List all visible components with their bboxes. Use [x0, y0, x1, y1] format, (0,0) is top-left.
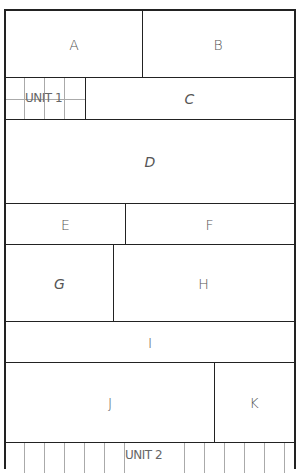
- room-a: A: [6, 11, 142, 78]
- unit2-grid-line: [264, 443, 265, 473]
- room-b: B: [142, 11, 294, 78]
- floor-plan: A B UNIT 1 C D E F G H I J K UNIT 2: [4, 9, 296, 469]
- room-h-label: H: [198, 276, 209, 292]
- room-g-label: G: [54, 276, 65, 292]
- room-d: D: [6, 120, 294, 204]
- room-h: H: [113, 245, 294, 322]
- room-i: I: [6, 322, 294, 363]
- unit1-label: UNIT 1: [25, 91, 62, 105]
- room-k-label: K: [249, 395, 258, 411]
- room-e: E: [6, 204, 125, 245]
- unit2-grid-line: [284, 443, 285, 473]
- room-j-label: J: [108, 395, 112, 411]
- unit2-grid-line: [24, 443, 25, 473]
- unit2-grid-line: [64, 443, 65, 473]
- unit2-grid-line: [84, 443, 85, 473]
- room-i-label: I: [148, 335, 152, 351]
- room-c-label: C: [185, 91, 195, 107]
- room-d-label: D: [145, 154, 156, 170]
- unit2-label: UNIT 2: [125, 448, 162, 462]
- divider-a-b: [142, 11, 143, 78]
- room-j: J: [6, 363, 214, 443]
- room-e-label: E: [61, 217, 70, 233]
- unit2-grid-line: [244, 443, 245, 473]
- unit2-grid-line: [224, 443, 225, 473]
- room-k: K: [214, 363, 294, 443]
- room-f-label: F: [205, 217, 213, 233]
- room-g: G: [6, 245, 113, 322]
- room-a-label: A: [69, 37, 79, 53]
- unit2-grid-line: [44, 443, 45, 473]
- unit2-grid-line: [204, 443, 205, 473]
- room-f: F: [125, 204, 294, 245]
- unit2-grid-line: [184, 443, 185, 473]
- room-b-label: B: [213, 37, 222, 53]
- unit2-grid-line: [104, 443, 105, 473]
- room-c: C: [85, 78, 294, 120]
- wall-row7: [6, 442, 294, 443]
